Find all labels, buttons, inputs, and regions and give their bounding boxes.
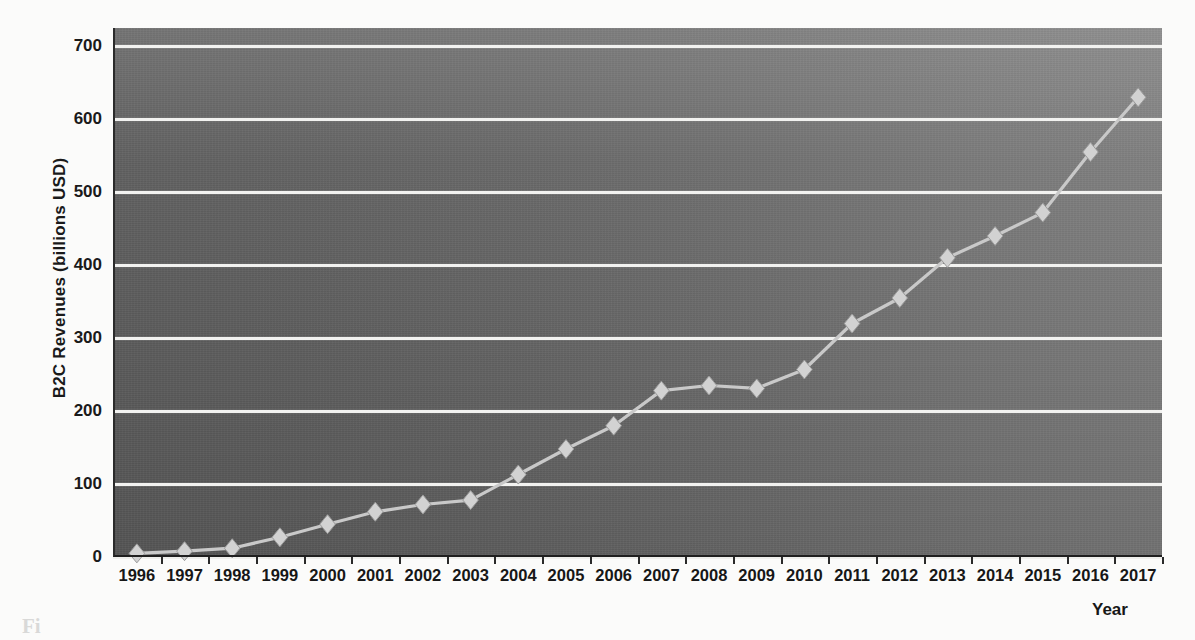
data-point-2001	[367, 502, 383, 521]
x-tick-1997	[208, 557, 210, 564]
y-tick-label-100: 100	[44, 474, 102, 494]
x-tick-2009	[781, 557, 783, 564]
data-point-2014	[987, 226, 1003, 245]
data-point-2002	[415, 495, 431, 514]
y-tick-label-500: 500	[44, 182, 102, 202]
x-tick-2006	[638, 557, 640, 564]
y-tick-label-600: 600	[44, 109, 102, 129]
x-tick-2004	[542, 557, 544, 564]
x-tick-2002	[447, 557, 449, 564]
x-tick-2010	[828, 557, 830, 564]
x-tick-2008	[733, 557, 735, 564]
data-point-2009	[749, 379, 765, 398]
x-tick-2011	[876, 557, 878, 564]
data-point-1998	[224, 539, 240, 558]
data-point-2003	[463, 491, 479, 510]
chart-figure: B2C Revenues (billions USD) 010020030040…	[0, 0, 1195, 640]
y-tick-label-400: 400	[44, 255, 102, 275]
y-tick-label-300: 300	[44, 328, 102, 348]
data-point-1999	[272, 528, 288, 547]
x-tick-2003	[494, 557, 496, 564]
y-tick-label-700: 700	[44, 36, 102, 56]
x-axis-title: Year	[1092, 600, 1128, 620]
x-tick-1996	[161, 557, 163, 564]
x-tick-2014	[1019, 557, 1021, 564]
plot-area	[113, 28, 1162, 557]
y-tick-label-0: 0	[44, 547, 102, 567]
data-point-2013	[940, 248, 956, 267]
data-point-2004	[511, 465, 527, 484]
data-point-2012	[892, 288, 908, 307]
x-tick-2007	[685, 557, 687, 564]
x-tick-2012	[924, 557, 926, 564]
x-tick-2016	[1114, 557, 1116, 564]
x-tick-2015	[1067, 557, 1069, 564]
data-point-2000	[320, 515, 336, 534]
y-tick-label-200: 200	[44, 401, 102, 421]
data-point-2006	[606, 416, 622, 435]
x-tick-2000	[351, 557, 353, 564]
x-tick-2001	[399, 557, 401, 564]
data-point-2005	[558, 440, 574, 459]
x-tick-label-2017: 2017	[1105, 566, 1171, 585]
x-tick-2005	[590, 557, 592, 564]
x-tick-1998	[256, 557, 258, 564]
x-tick-2013	[971, 557, 973, 564]
data-point-1996	[129, 544, 145, 563]
series-line	[137, 97, 1138, 553]
y-axis-tick-labels: 0100200300400500600700	[40, 0, 102, 640]
caption-fragment: Fi	[22, 614, 82, 634]
data-point-2008	[701, 376, 717, 395]
x-tick-2017	[1162, 557, 1164, 564]
line-series	[113, 28, 1162, 557]
data-point-2007	[654, 381, 670, 400]
x-tick-1999	[304, 557, 306, 564]
